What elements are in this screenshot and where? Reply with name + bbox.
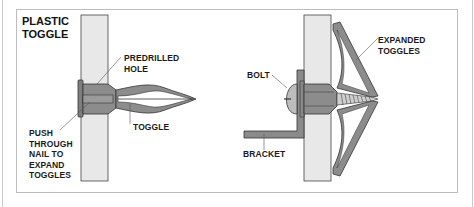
sleeve (304, 84, 337, 114)
label-predrilled-hole: PREDRILLED HOLE (124, 53, 179, 74)
diagram-title: PLASTIC TOGGLE (22, 15, 69, 41)
label-bracket: BRACKET (243, 149, 285, 160)
left-diagram (60, 15, 196, 181)
label-push-through: PUSH THROUGH NAIL TO EXPAND TOGGLES (29, 128, 73, 181)
label-toggle: TOGGLE (133, 122, 169, 133)
toggle-flange (78, 80, 83, 117)
label-expanded-toggles: EXPANDED TOGGLES (378, 35, 425, 56)
label-bolt: BOLT (247, 70, 270, 81)
